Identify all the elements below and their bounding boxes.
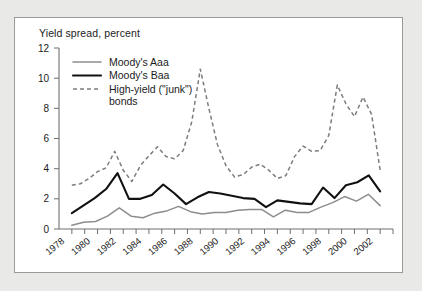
y-tick-12: 12 bbox=[38, 43, 50, 54]
x-tick-2002: 2002 bbox=[351, 235, 374, 257]
x-axis-labels: 1978198019821984198619881990199219941996… bbox=[43, 235, 375, 257]
x-tick-1996: 1996 bbox=[274, 235, 297, 257]
y-tick-0: 0 bbox=[43, 224, 49, 235]
x-axis-ticks bbox=[72, 229, 393, 234]
legend-label-moodys-baa: Moody's Baa bbox=[109, 69, 170, 81]
chart-legend: Moody's Aaa Moody's Baa High-yield ("jun… bbox=[73, 56, 192, 108]
y-axis-ticks bbox=[54, 48, 59, 229]
y-tick-2: 2 bbox=[43, 193, 49, 204]
x-tick-1984: 1984 bbox=[120, 235, 143, 257]
legend-label-moodys-aaa: Moody's Aaa bbox=[109, 56, 169, 68]
x-tick-1998: 1998 bbox=[300, 235, 323, 257]
y-tick-8: 8 bbox=[43, 103, 49, 114]
figure-root: Yield spread, percent 0 2 4 6 8 bbox=[0, 0, 422, 291]
x-tick-1988: 1988 bbox=[171, 235, 194, 257]
x-tick-2000: 2000 bbox=[326, 235, 349, 257]
y-axis-labels: 0 2 4 6 8 10 12 bbox=[38, 43, 50, 235]
y-tick-4: 4 bbox=[43, 163, 49, 174]
x-tick-1978: 1978 bbox=[43, 235, 66, 257]
chart-panel: Yield spread, percent 0 2 4 6 8 bbox=[14, 17, 403, 273]
series-line-moodys-baa bbox=[72, 173, 380, 213]
x-tick-1994: 1994 bbox=[249, 235, 272, 257]
x-tick-1986: 1986 bbox=[146, 235, 169, 257]
chart-plot-area: 0 2 4 6 8 10 12 197819801982198419861988… bbox=[15, 18, 402, 272]
y-tick-6: 6 bbox=[43, 133, 49, 144]
x-tick-1990: 1990 bbox=[197, 235, 220, 257]
x-tick-1982: 1982 bbox=[94, 235, 117, 257]
legend-label-high-yield-junk-line2: bonds bbox=[109, 95, 138, 107]
x-tick-1992: 1992 bbox=[223, 235, 246, 257]
y-tick-10: 10 bbox=[38, 73, 50, 84]
legend-label-high-yield-junk: High-yield ("junk") bbox=[109, 83, 192, 95]
x-tick-1980: 1980 bbox=[69, 235, 92, 257]
